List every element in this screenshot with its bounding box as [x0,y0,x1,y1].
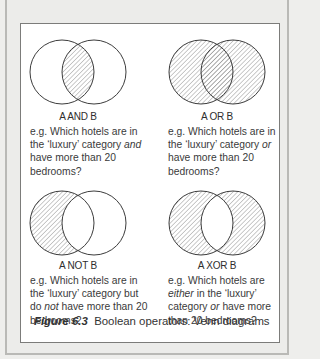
example-text: e.g. Which hotels are in the ‘luxury’ ca… [30,126,138,150]
operator-label-or: A OR B [167,111,267,122]
venn-not-diagram [27,186,131,260]
example-text: have more than 20 bedrooms? [168,152,254,176]
venn-or-diagram [166,35,270,109]
figure-box: A AND B e.g. Which hotels are in the ‘lu… [20,23,280,343]
example-text: e.g. Which hotels are in the ‘luxury’ ca… [168,126,276,150]
example-text: have more than 20 bedrooms? [30,152,116,176]
figure-caption: Figure 6.3 Boolean operators: Venn diagr… [34,315,270,327]
venn-xor-diagram [166,186,270,260]
emphasis-either: either [168,288,194,299]
emphasis-or: or [210,301,219,312]
emphasis-and: and [124,139,141,150]
example-text-or: e.g. Which hotels are in the ‘luxury’ ca… [168,125,286,178]
emphasis-not: not [44,301,58,312]
venn-and-diagram [27,35,131,109]
example-text-and: e.g. Which hotels are in the ‘luxury’ ca… [30,125,148,178]
example-text: e.g. Which hotels are [168,275,265,286]
caption-text: Boolean operators: Venn diagrams [94,315,269,327]
emphasis-or: or [262,139,271,150]
operator-label-not: A NOT B [28,260,128,271]
figure-number: Figure 6.3 [34,315,88,327]
operator-label-xor: A XOR B [167,260,267,271]
operator-label-and: A AND B [28,111,128,122]
